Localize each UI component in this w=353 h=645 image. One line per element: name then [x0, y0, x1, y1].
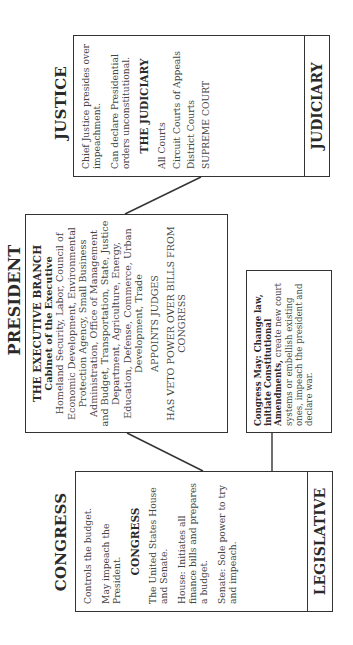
government-branches-diagram: JUSTICE PRESIDENT CONGRESS Chief Justice… [0, 0, 353, 645]
judiciary-statement: Can declare Presidential orders unconsti… [109, 43, 131, 169]
judiciary-content: Chief Justice presides over impeachment.… [74, 36, 220, 176]
veto-power: HAS VETO POWER OVER BILLS FROM CONGRESS [165, 220, 187, 427]
executive-box: THE EXECUTIVE BRANCH Cabinet of the Exec… [25, 214, 228, 433]
congress-title: CONGRESS [52, 493, 70, 591]
court-item: Circuit Courts of Appeals [171, 43, 182, 169]
cabinet-heading: Cabinet of the Executive [43, 220, 54, 427]
legislative-detail: The United States House and Senate. [147, 479, 169, 604]
legislative-sub-heading: CONGRESS [130, 479, 141, 604]
legislative-branch-label: LEGISLATIVE [307, 472, 332, 611]
legislative-detail: House: Initiates all finance bills and p… [176, 479, 209, 604]
president-title: PRESIDENT [5, 245, 24, 356]
judiciary-box: Chief Justice presides over impeachment.… [73, 35, 330, 177]
cabinet-list: Homeland Security, Labor, Council of Eco… [54, 220, 144, 427]
legislative-content: Controls the budget. May impeach the Pre… [76, 472, 251, 611]
congress-powers-box: Congress May: Change law, initiate Const… [246, 270, 332, 433]
executive-heading: THE EXECUTIVE BRANCH [32, 220, 43, 427]
justice-president-connector [125, 177, 201, 214]
legislative-box: Controls the budget. May impeach the Pre… [75, 471, 333, 612]
judiciary-statement: Chief Justice presides over impeachment. [80, 43, 102, 169]
legislative-statement: May impeach the President. [100, 479, 122, 604]
court-item: SUPREME COURT [200, 43, 211, 169]
judiciary-sub-heading: THE JUDICIARY [139, 43, 150, 169]
president-congress-connector [127, 433, 203, 471]
court-item: All Courts [156, 43, 167, 169]
court-list: All Courts Circuit Courts of Appeals Dis… [156, 43, 211, 169]
congress-powers-content: Congress May: Change law, initiate Const… [247, 271, 320, 432]
judiciary-branch-label: JUDICIARY [304, 36, 329, 176]
appoints-judges: APPOINTS JUDGES [149, 220, 160, 427]
legislative-detail: Senate: Sole power to try and impeach. [216, 479, 238, 604]
justice-title: JUSTICE [52, 66, 70, 140]
executive-content: THE EXECUTIVE BRANCH Cabinet of the Exec… [26, 215, 194, 432]
court-item: District Courts [185, 43, 196, 169]
legislative-statement: Controls the budget. [82, 479, 93, 604]
